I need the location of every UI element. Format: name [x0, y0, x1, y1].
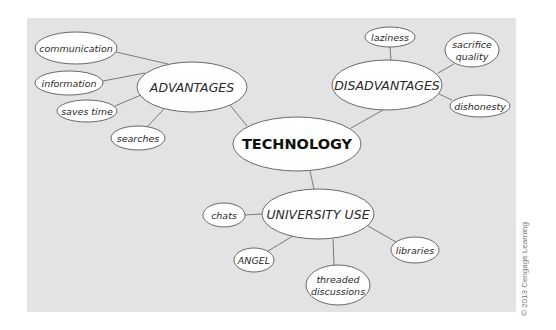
node-sacrifice-quality: sacrificequality — [445, 33, 499, 67]
mind-map-canvas: communicationinformationsaves timesearch… — [0, 0, 556, 330]
laziness-label: laziness — [371, 32, 409, 43]
node-advantages: ADVANTAGES — [137, 62, 247, 112]
node-searches: searches — [111, 126, 165, 150]
technology-label: TECHNOLOGY — [242, 136, 353, 152]
node-saves-time: saves time — [57, 100, 117, 122]
node-laziness: laziness — [365, 27, 415, 47]
communication-label: communication — [39, 43, 112, 54]
sacrifice-quality-label: sacrifice — [452, 39, 492, 50]
node-disadvantages: DISADVANTAGES — [332, 60, 442, 110]
node-angel: ANGEL — [234, 248, 274, 272]
disadvantages-label: DISADVANTAGES — [334, 78, 440, 93]
threaded-discussions-label: discussions — [311, 286, 365, 297]
information-label: information — [42, 78, 97, 89]
advantages-label: ADVANTAGES — [149, 80, 234, 95]
node-information: information — [35, 71, 103, 95]
node-communication: communication — [35, 32, 117, 64]
node-libraries: libraries — [391, 237, 439, 263]
saves-time-label: saves time — [61, 106, 113, 117]
node-technology: TECHNOLOGY — [233, 117, 361, 171]
sacrifice-quality-label: quality — [456, 51, 489, 62]
node-threaded-discussions: threadeddiscussions — [306, 265, 370, 305]
threaded-discussions-label: threaded — [316, 274, 360, 285]
copyright-credit: © 2013 Cengage Learning — [520, 222, 529, 316]
node-dishonesty: dishonesty — [450, 95, 510, 117]
root-node: TECHNOLOGY — [233, 117, 361, 171]
university-use-label: UNIVERSITY USE — [266, 207, 369, 222]
node-university-use: UNIVERSITY USE — [262, 189, 374, 239]
dishonesty-label: dishonesty — [454, 101, 506, 112]
node-chats: chats — [203, 203, 245, 227]
angel-label: ANGEL — [237, 255, 270, 266]
libraries-label: libraries — [396, 245, 434, 256]
chats-label: chats — [211, 210, 237, 221]
searches-label: searches — [117, 133, 160, 144]
